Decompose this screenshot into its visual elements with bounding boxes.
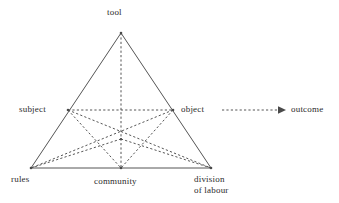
node-label-rules: rules bbox=[11, 174, 30, 184]
vertex-dot-subject bbox=[67, 109, 70, 112]
node-label-object: object bbox=[181, 104, 204, 114]
node-label-division-line2: of labour bbox=[194, 185, 229, 195]
edge-subject-to-division bbox=[68, 110, 211, 168]
vertex-dot-rules bbox=[30, 167, 33, 170]
edge-object-to-community bbox=[121, 110, 173, 168]
edge-object-to-rules bbox=[31, 110, 173, 168]
diagram-canvas bbox=[0, 0, 339, 203]
edge-subject-to-community bbox=[68, 110, 121, 168]
vertex-dot-object bbox=[172, 109, 175, 112]
vertex-dot-community bbox=[120, 167, 123, 170]
vertex-dot-center bbox=[120, 138, 122, 140]
vertex-dot-division bbox=[210, 167, 213, 170]
outcome-arrow-head-icon bbox=[278, 106, 286, 114]
node-label-tool: tool bbox=[107, 7, 122, 17]
activity-triangle-diagram: tool subject object outcome rules commun… bbox=[0, 0, 339, 203]
inner-dashed-network bbox=[31, 33, 211, 168]
node-label-subject: subject bbox=[19, 104, 46, 114]
node-label-community: community bbox=[94, 176, 137, 186]
edge-tool-to-division bbox=[121, 33, 211, 168]
node-label-outcome: outcome bbox=[291, 104, 323, 114]
node-label-division-of-labour: division of labour bbox=[194, 174, 246, 196]
vertex-dot-tool bbox=[120, 32, 123, 35]
outcome-arrow-group bbox=[222, 106, 286, 114]
edge-tool-to-rules bbox=[31, 33, 121, 168]
node-label-division-line1: division bbox=[194, 174, 225, 184]
